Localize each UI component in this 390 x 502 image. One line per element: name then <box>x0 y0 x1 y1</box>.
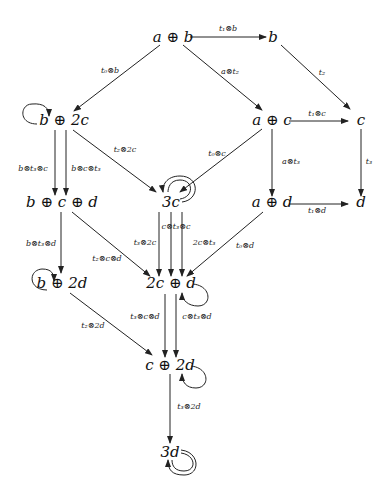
label-t2-2c: t₂⊗2c <box>114 145 137 154</box>
node-b_c_d: b ⊕ c ⊕ d <box>26 193 98 211</box>
label-2c-t3: 2c⊗t₃ <box>192 238 216 247</box>
label-b-t3-c: b⊗t₃⊗c <box>18 164 48 173</box>
label-c-t3-c: c⊗t₃⊗c <box>162 222 191 231</box>
node-2c_d: 2c ⊕ d <box>145 274 196 292</box>
node-b_2c: b ⊕ 2c <box>39 111 89 129</box>
label-t1-b: t₁⊗b <box>219 24 237 33</box>
edge-a_c-to-3c <box>180 129 262 192</box>
label-t3-c-d: t₃⊗c⊗d <box>130 312 159 321</box>
label-t0-b: t₀⊗b <box>101 66 119 75</box>
node-a_d: a ⊕ d <box>252 193 293 211</box>
label-t2-2d: t₂⊗2d <box>81 321 104 330</box>
edge-a_b-to-a_c <box>183 45 262 110</box>
edge-labels: t₁⊗b t₀⊗b a⊗t₂ t₂ t₁⊗c t₀⊗c a⊗t₃ t₃ t₁⊗d… <box>18 24 372 411</box>
commutative-diagram: a ⊕ b b b ⊕ 2c a ⊕ c c b ⊕ c ⊕ d 3c a ⊕ … <box>0 0 390 502</box>
label-a-t3: a⊗t₃ <box>282 157 300 166</box>
edge-b_2c-to-3c <box>73 130 156 192</box>
label-t2-c-d: t₂⊗c⊗d <box>92 254 121 263</box>
node-d: d <box>356 193 366 211</box>
node-3d: 3d <box>160 443 179 461</box>
edge-a_b-to-b_2c <box>74 45 160 111</box>
node-b: b <box>268 28 278 46</box>
label-t3-2c: t₃⊗2c <box>134 238 157 247</box>
label-t3-2d: t₃⊗2d <box>177 402 200 411</box>
label-t1-d: t₁⊗d <box>308 206 326 215</box>
node-c_2d: c ⊕ 2d <box>145 356 195 374</box>
label-b-c-t3: b⊗c⊗t₃ <box>71 164 100 173</box>
label-a-t2: a⊗t₂ <box>221 67 239 76</box>
label-t0-c: t₀⊗c <box>208 149 226 158</box>
node-c: c <box>357 111 366 129</box>
label-t0-d: t₀⊗d <box>236 241 254 250</box>
label-t1-c: t₁⊗c <box>308 109 326 118</box>
label-c-t3-d: c⊗t₃⊗d <box>182 312 211 321</box>
label-t2: t₂ <box>319 68 325 77</box>
edge-b-to-c <box>281 45 350 109</box>
node-3c: 3c <box>162 193 181 211</box>
label-b-t3-d: b⊗t₃⊗d <box>26 239 56 248</box>
node-a_c: a ⊕ c <box>252 111 292 129</box>
node-a_b: a ⊕ b <box>153 28 194 46</box>
label-t3: t₃ <box>366 157 372 166</box>
node-b_2d: b ⊕ 2d <box>37 274 88 292</box>
